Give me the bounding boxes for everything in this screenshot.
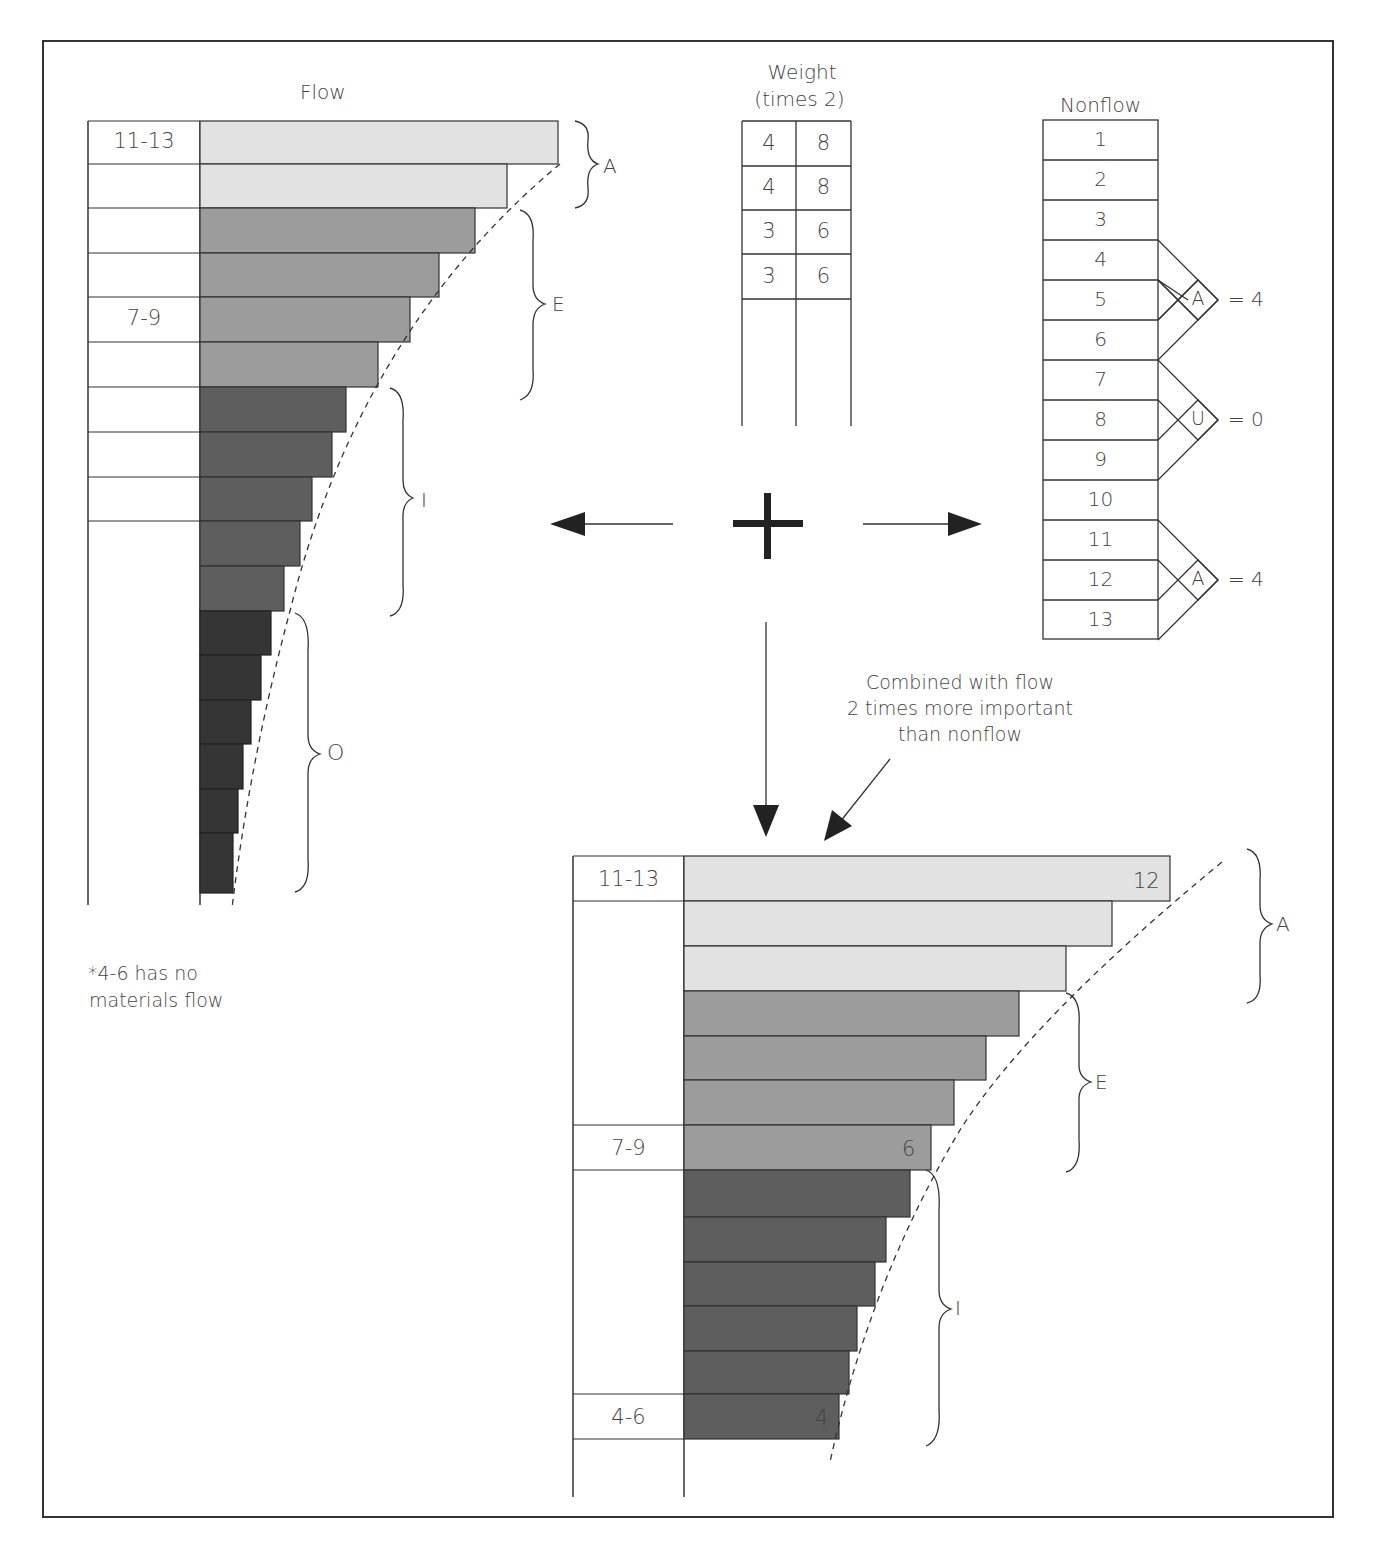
weight-cell: 3 [742, 264, 796, 288]
arrow-right-icon [863, 512, 982, 536]
nonflow-item: 12 [1043, 567, 1158, 591]
combined-row-label: 7-9 [573, 1136, 684, 1160]
flow-bar [200, 477, 312, 521]
flow-title: Flow [300, 80, 346, 104]
nonflow-item: 8 [1043, 407, 1158, 431]
weight-cell: 4 [742, 131, 796, 155]
flow-bar [200, 789, 238, 833]
flow-footnote-line2: materials flow [89, 989, 223, 1011]
weight-title-line2: (times 2) [742, 87, 857, 111]
weight-title-line1: Weight [742, 60, 862, 84]
plus-icon [733, 493, 803, 559]
flow-bar [200, 700, 251, 744]
combined-bar [684, 1351, 849, 1394]
flow-bar [200, 521, 300, 566]
relationship-result: = 4 [1228, 287, 1264, 311]
flow-bar [200, 432, 332, 477]
combined-group-label-a: A [1276, 912, 1290, 936]
combined-group-label-i: I [955, 1296, 961, 1320]
flow-bar [200, 121, 558, 164]
arrow-down-icon [753, 622, 779, 837]
flow-chart [88, 121, 598, 908]
relationship-code: A [1180, 287, 1216, 309]
combined-chart [573, 849, 1272, 1497]
combined-bar [684, 991, 1019, 1036]
combined-bar [684, 1080, 954, 1125]
combined-row-label: 11-13 [573, 867, 684, 891]
nonflow-item: 4 [1043, 247, 1158, 271]
annotation-line3: than nonflow [830, 723, 1090, 745]
flow-bar [200, 253, 439, 297]
combined-bar-value: 6 [902, 1137, 915, 1161]
combined-bar [684, 1036, 986, 1080]
nonflow-item: 5 [1043, 287, 1158, 311]
flow-bar [200, 744, 243, 789]
flow-bar [200, 208, 475, 253]
flow-bar [200, 297, 410, 342]
flow-bar [200, 833, 233, 893]
flow-row-label: 11-13 [88, 129, 200, 153]
weight-cell: 4 [742, 175, 796, 199]
combined-row-label: 4-6 [573, 1405, 684, 1429]
flow-bar [200, 566, 284, 611]
combined-bar [684, 1125, 931, 1170]
nonflow-item: 10 [1043, 487, 1158, 511]
flow-bar [200, 342, 378, 387]
relationship-result: = 0 [1228, 407, 1264, 431]
weight-cell: 6 [796, 264, 851, 288]
flow-bar [200, 387, 346, 432]
flow-footnote-line1: *4-6 has no [88, 962, 198, 984]
weight-cell: 8 [796, 175, 851, 199]
combined-bar [684, 1170, 910, 1217]
flow-row-label: 7-9 [88, 306, 200, 330]
flow-bar [200, 655, 261, 700]
nonflow-title: Nonflow [1043, 93, 1158, 117]
combined-bar [684, 856, 1170, 901]
flow-bar [200, 611, 271, 655]
flow-group-label-e: E [552, 292, 565, 316]
weight-cell: 6 [796, 219, 851, 243]
annotation-line1: Combined with flow [830, 671, 1090, 693]
nonflow-item: 2 [1043, 167, 1158, 191]
flow-group-label-i: I [421, 488, 427, 512]
arrow-left-icon [550, 512, 673, 536]
relationship-result: = 4 [1228, 567, 1264, 591]
nonflow-item: 13 [1043, 607, 1158, 631]
flow-group-label-a: A [603, 154, 617, 178]
nonflow-item: 1 [1043, 127, 1158, 151]
nonflow-item: 3 [1043, 207, 1158, 231]
nonflow-item: 11 [1043, 527, 1158, 551]
flow-group-label-o: O [327, 740, 344, 765]
annotation-line2: 2 times more important [830, 697, 1090, 719]
combined-bar [684, 1217, 886, 1262]
nonflow-item: 7 [1043, 367, 1158, 391]
arrow-diagonal-icon [824, 759, 890, 841]
weight-cell: 3 [742, 219, 796, 243]
combined-bar-value: 12 [1133, 869, 1160, 893]
combined-bar [684, 901, 1112, 946]
diagram-canvas [0, 0, 1374, 1551]
combined-bar-value: 4 [815, 1406, 828, 1430]
relationship-code: A [1180, 567, 1216, 589]
combined-group-label-e: E [1095, 1070, 1108, 1094]
nonflow-item: 9 [1043, 447, 1158, 471]
flow-bar [200, 164, 507, 208]
nonflow-item: 6 [1043, 327, 1158, 351]
flow-bars [200, 121, 558, 893]
relationship-code: U [1180, 407, 1216, 429]
weight-cell: 8 [796, 131, 851, 155]
combined-bar [684, 1306, 857, 1351]
combined-bars [684, 856, 1170, 1439]
combined-bar [684, 1262, 875, 1306]
combined-bar [684, 946, 1066, 991]
